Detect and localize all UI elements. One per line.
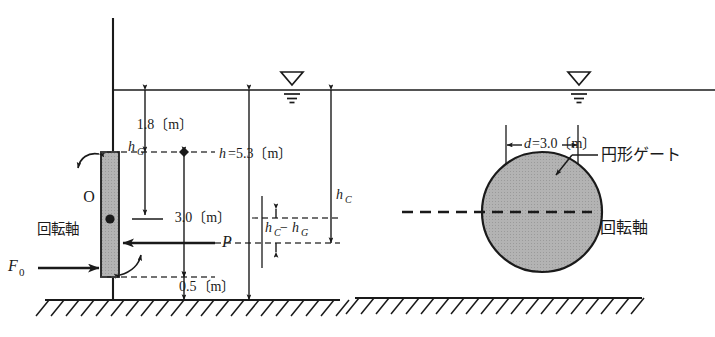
label-3p0m: 3.0〔m〕 xyxy=(175,210,231,225)
svg-text:=3.0〔m〕: =3.0〔m〕 xyxy=(532,136,596,151)
svg-text:h: h xyxy=(292,220,299,235)
svg-text:h: h xyxy=(265,220,272,235)
label-rotation-axis-left: 回転軸 xyxy=(37,221,79,237)
svg-text:d: d xyxy=(524,136,532,151)
svg-text:C: C xyxy=(345,194,352,205)
svg-text:F: F xyxy=(7,257,18,274)
svg-text:−: − xyxy=(280,220,288,235)
svg-text:=5.3〔m〕: =5.3〔m〕 xyxy=(228,146,292,161)
label-0p5m: 0.5〔m〕 xyxy=(179,279,235,294)
svg-text:h: h xyxy=(336,187,343,202)
label-rotation-axis-right: 回転軸 xyxy=(600,218,648,237)
label-pivot-O: O xyxy=(83,188,95,205)
label-circular-gate: 円形ゲート xyxy=(601,145,681,164)
svg-text:h: h xyxy=(219,146,226,161)
svg-text:G: G xyxy=(137,146,144,157)
pivot-dot xyxy=(105,214,114,223)
figure-canvas: 1.8〔m〕 3.0〔m〕 0.5〔m〕 h =5.3〔m〕 h G h C h… xyxy=(0,0,715,337)
svg-text:h: h xyxy=(128,139,135,154)
diagram-svg: 1.8〔m〕 3.0〔m〕 0.5〔m〕 h =5.3〔m〕 h G h C h… xyxy=(0,0,715,337)
svg-text:0: 0 xyxy=(19,266,25,278)
label-diameter: d =3.0〔m〕 xyxy=(524,136,596,151)
svg-text:G: G xyxy=(301,227,308,238)
label-force-P: P xyxy=(221,233,232,250)
label-1p8m: 1.8〔m〕 xyxy=(137,117,193,132)
label-h-total: h =5.3〔m〕 xyxy=(219,146,292,161)
